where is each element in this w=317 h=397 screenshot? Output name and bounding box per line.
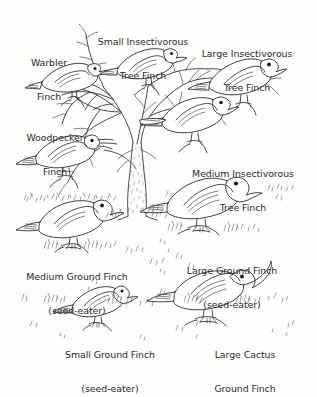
label-large-cactus-ground-finch: Large Cactus Ground Finch xyxy=(190,327,300,397)
label-medium-insectivorous-tree-finch: Medium Insectivorous Tree Finch xyxy=(170,146,316,224)
label-woodpecker-finch: Woodpecker Finch xyxy=(5,110,105,188)
label-large-insectivorous-tree-finch: Large Insectivorous Tree Finch xyxy=(177,26,317,104)
label-medium-ground-finch: Medium Ground Finch (seed-eater) xyxy=(7,249,147,327)
label-small-ground-finch: Small Ground Finch (seed-eater) xyxy=(44,327,176,397)
label-large-ground-finch: Large Ground Finch (seed-eater) xyxy=(165,243,299,321)
